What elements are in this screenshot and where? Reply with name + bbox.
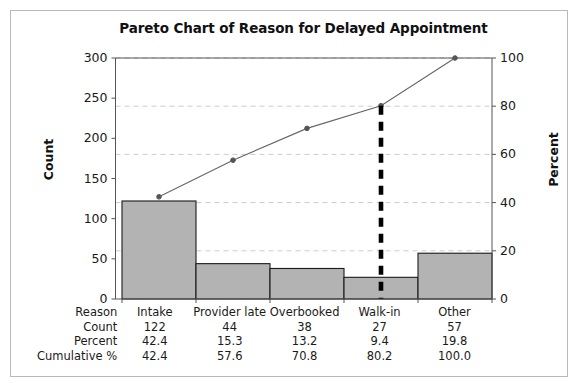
table-row: Percent42.415.313.29.419.8	[15, 334, 492, 349]
table-cell: Intake	[117, 305, 192, 320]
table-row-label: Cumulative %	[15, 349, 117, 364]
table-cell: Provider late	[192, 305, 267, 320]
table-cell: 42.4	[117, 349, 192, 364]
bar	[196, 264, 270, 299]
y-tick-label-left: 250	[64, 90, 108, 105]
y-tick-label-right: 100	[500, 50, 544, 65]
y-tick-label-right: 40	[500, 195, 544, 210]
pareto-data-table: ReasonIntakeProvider lateOverbookedWalk-…	[15, 305, 492, 363]
table-row-label: Count	[15, 320, 117, 335]
table-row: Count12244382757	[15, 320, 492, 335]
y-tick-label-right: 0	[500, 291, 544, 306]
table-cell: 42.4	[117, 334, 192, 349]
table-row: ReasonIntakeProvider lateOverbookedWalk-…	[15, 305, 492, 320]
bar	[122, 201, 196, 299]
pareto-chart-figure: Pareto Chart of Reason for Delayed Appoi…	[0, 0, 578, 387]
table-cell: 57.6	[192, 349, 267, 364]
table-cell: 27	[342, 320, 417, 335]
table-cell: Other	[417, 305, 492, 320]
cumulative-point-marker	[231, 158, 236, 163]
bars-group	[122, 201, 492, 299]
y-axis-label-percent: Percent	[546, 130, 561, 190]
y-tick-label-left: 50	[64, 251, 108, 266]
y-tick-label-right: 20	[500, 243, 544, 258]
y-tick-label-left: 0	[64, 291, 108, 306]
table-cell: 13.2	[267, 334, 342, 349]
y-tick-label-left: 300	[64, 50, 108, 65]
cumulative-point-marker	[157, 195, 162, 200]
table-row-label: Reason	[15, 305, 117, 320]
y-tick-label-right: 80	[500, 98, 544, 113]
y-tick-label-right: 60	[500, 146, 544, 161]
cumulative-point-marker	[305, 126, 310, 131]
y-tick-label-left: 200	[64, 130, 108, 145]
table-cell: 19.8	[417, 334, 492, 349]
table-cell: 100.0	[417, 349, 492, 364]
table-cell: 15.3	[192, 334, 267, 349]
table-cell: Overbooked	[267, 305, 342, 320]
bar	[270, 268, 344, 299]
bar	[418, 253, 492, 299]
table-cell: 70.8	[267, 349, 342, 364]
y-axis-label-count: Count	[41, 130, 56, 190]
table-cell: 57	[417, 320, 492, 335]
table-cell: 80.2	[342, 349, 417, 364]
cumulative-line-group	[157, 56, 458, 199]
table-row-label: Percent	[15, 334, 117, 349]
y-tick-label-left: 150	[64, 171, 108, 186]
table-cell: 38	[267, 320, 342, 335]
table-cell: 44	[192, 320, 267, 335]
table-cell: Walk-in	[342, 305, 417, 320]
table-cell: 9.4	[342, 334, 417, 349]
table-row: Cumulative %42.457.670.880.2100.0	[15, 349, 492, 364]
y-tick-label-left: 100	[64, 211, 108, 226]
table-cell: 122	[117, 320, 192, 335]
